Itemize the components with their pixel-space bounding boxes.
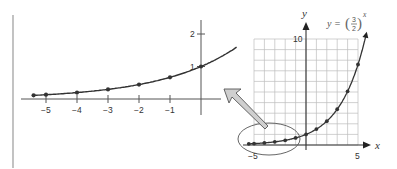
x-tick-5: 5 [355, 151, 360, 161]
data-point [168, 75, 172, 79]
zoomed-plot: −5−4−3−2−1 12 [21, 20, 237, 115]
y-axis-arrow-icon [303, 22, 310, 30]
x-tick-label: −5 [41, 105, 51, 115]
fraction-denominator: 2 [352, 25, 356, 32]
x-axis-label: x [374, 139, 380, 151]
figure: −5−4−3−2−1 12 x y 10 −5 5 y = ( 3 2 ) x [0, 0, 397, 169]
x-tick-label: −1 [165, 105, 175, 115]
paren-left: ( [345, 15, 350, 32]
zoomed-x-ticks: −5−4−3−2−1 [41, 95, 175, 115]
data-point [325, 119, 329, 123]
full-data-points [247, 63, 360, 146]
data-point [75, 90, 79, 94]
data-point [137, 82, 141, 86]
x-tick-label: −4 [72, 105, 82, 115]
fraction-numerator: 3 [352, 16, 356, 23]
zoomed-curve [32, 47, 237, 95]
callout-arrow-icon [224, 89, 268, 129]
data-point [356, 63, 360, 67]
equation-label: y = ( 3 2 ) x [326, 10, 367, 32]
data-point [106, 87, 110, 91]
x-axis-arrow-icon [363, 142, 371, 149]
data-point [199, 64, 203, 68]
data-point [263, 141, 267, 145]
y-tick-10: 10 [293, 34, 303, 44]
paren-right: ) [357, 15, 362, 32]
data-point [31, 93, 35, 97]
equation-prefix: y = [326, 18, 341, 29]
curve-arrow-icon [362, 32, 368, 39]
x-tick-label: −2 [134, 105, 144, 115]
data-point [315, 127, 319, 131]
data-point [283, 138, 287, 142]
x-tick-label: −3 [103, 105, 113, 115]
data-point [335, 107, 339, 111]
zoomed-data-points [31, 64, 203, 97]
data-point [252, 142, 256, 146]
y-tick-label: 2 [190, 29, 195, 39]
full-plot: x y 10 −5 5 y = ( 3 2 ) x [238, 7, 380, 161]
data-point [247, 142, 251, 146]
data-point [44, 93, 48, 97]
equation-exponent: x [362, 10, 367, 19]
y-axis-label: y [301, 7, 307, 19]
data-point [346, 89, 350, 93]
data-point [304, 133, 308, 137]
data-point [273, 140, 277, 144]
data-point [294, 136, 298, 140]
